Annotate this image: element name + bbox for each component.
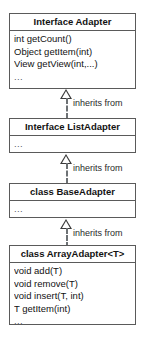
class-box-interface-adapter: Interface Adapter int getCount() Object … [9, 13, 136, 89]
class-member: void add(T) [14, 265, 135, 278]
class-member-ellipsis: ... [14, 138, 135, 149]
class-box-header: class ArrayAdapter<T> [10, 246, 135, 263]
dashed-connector-line [66, 163, 68, 184]
hollow-triangle-arrow-fill-icon [62, 156, 70, 163]
hollow-triangle-arrow-fill-icon [62, 91, 70, 98]
class-member: void remove(T) [14, 278, 135, 291]
class-member-ellipsis: ... [14, 315, 135, 326]
class-box-members: void add(T) void remove(T) void insert(T… [10, 263, 135, 325]
class-member-ellipsis: ... [14, 71, 135, 82]
dashed-connector-line [66, 98, 68, 119]
inheritance-label: inherits from [73, 98, 123, 109]
class-box-members: ... [10, 201, 135, 218]
class-member: T getItem(int) [14, 303, 135, 316]
class-member: void insert(T, int) [14, 290, 135, 303]
uml-class-diagram: Interface Adapter int getCount() Object … [0, 0, 146, 341]
class-member: View getView(int,...) [14, 58, 135, 71]
class-member: Object getItem(int) [14, 46, 135, 59]
class-box-baseadapter: class BaseAdapter ... [9, 183, 136, 218]
inheritance-label: inherits from [73, 163, 123, 174]
class-box-interface-listadapter: Interface ListAdapter ... [9, 118, 136, 153]
class-member-ellipsis: ... [14, 203, 135, 214]
class-box-header: Interface ListAdapter [10, 119, 135, 136]
class-box-arrayadapter: class ArrayAdapter<T> void add(T) void r… [9, 245, 136, 325]
hollow-triangle-arrow-fill-icon [62, 221, 70, 228]
class-box-members: int getCount() Object getItem(int) View … [10, 31, 135, 89]
class-box-members: ... [10, 136, 135, 153]
class-member: int getCount() [14, 33, 135, 46]
inheritance-label: inherits from [73, 228, 123, 239]
class-box-header: Interface Adapter [10, 14, 135, 31]
class-box-header: class BaseAdapter [10, 184, 135, 201]
